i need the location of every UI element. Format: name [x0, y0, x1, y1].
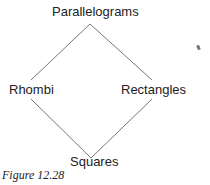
edge-parallelograms-rhombi: [31, 24, 90, 80]
edge-rhombi-squares: [31, 99, 91, 158]
figure-caption: Figure 12.28: [2, 168, 64, 183]
edge-rectangles-squares: [91, 99, 152, 158]
node-rectangles: Rectangles: [121, 82, 186, 97]
node-parallelograms: Parallelograms: [52, 4, 139, 19]
node-rhombi: Rhombi: [9, 82, 54, 97]
edge-parallelograms-rectangles: [90, 24, 152, 80]
node-squares: Squares: [70, 154, 118, 169]
